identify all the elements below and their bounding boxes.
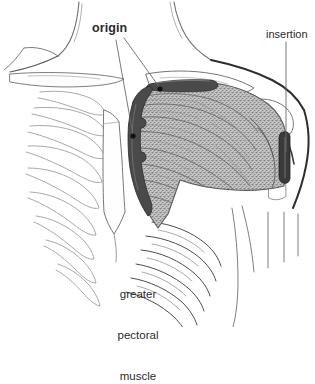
label-greater-pectoral-muscle: greater pectoral muscle bbox=[96, 261, 180, 384]
label-muscle-line-1: greater bbox=[96, 288, 180, 302]
insertion-attachment bbox=[279, 132, 290, 184]
origin-marker-sternal bbox=[130, 133, 135, 138]
clavicle-left bbox=[10, 73, 124, 87]
leader-origin-clavicular bbox=[124, 38, 160, 88]
label-muscle-line-2: pectoral bbox=[96, 329, 180, 343]
greater-pectoral-muscle bbox=[129, 82, 286, 230]
sternum bbox=[103, 110, 125, 262]
lateral-contour-lines bbox=[232, 206, 298, 327]
label-muscle-line-3: muscle bbox=[96, 370, 180, 384]
label-origin: origin bbox=[92, 21, 127, 36]
origin-marker-clavicular bbox=[157, 86, 162, 91]
label-insertion: insertion bbox=[266, 28, 308, 41]
